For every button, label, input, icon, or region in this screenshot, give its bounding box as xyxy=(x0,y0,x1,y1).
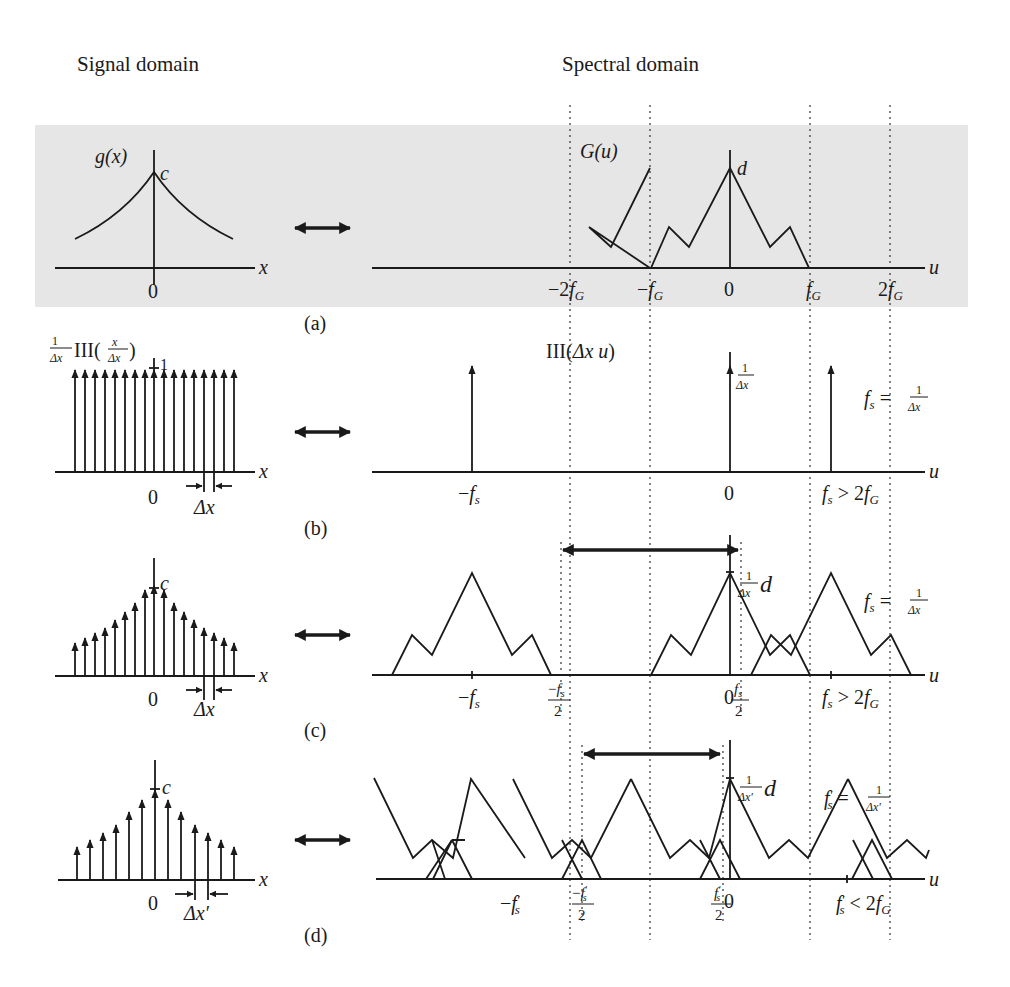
tick-fs-gt-2fG-c: fs > 2fG xyxy=(822,686,879,711)
label-III-signal: III( xyxy=(74,339,101,362)
label-0-d: 0 xyxy=(148,892,158,914)
svg-text:): ) xyxy=(129,339,136,362)
tick-minus-fsp-half-d: −f′s 2 xyxy=(572,884,594,923)
svg-text:1: 1 xyxy=(746,569,752,583)
tick-0-c: 0 xyxy=(724,686,734,708)
dotted-guides xyxy=(561,105,890,940)
svg-text:1: 1 xyxy=(746,773,752,787)
svg-text:Δx′: Δx′ xyxy=(865,800,881,814)
panel-a-spectrum xyxy=(372,150,925,268)
panel-c-dx-arrows xyxy=(186,676,232,700)
label-peak-c: d xyxy=(760,571,773,597)
svg-text:1: 1 xyxy=(916,586,922,600)
relation-c: fs = xyxy=(864,590,891,615)
svg-text:Δx′: Δx′ xyxy=(737,790,753,804)
caption-b: (b) xyxy=(304,517,327,540)
svg-text:fs: fs xyxy=(734,681,742,699)
panel-d-dx-arrows xyxy=(175,880,228,900)
label-d-a: d xyxy=(737,157,748,179)
label-unit-1: 1 xyxy=(160,356,168,373)
tick-2fG: 2fG xyxy=(878,278,904,303)
relation-b: fs = xyxy=(864,387,891,412)
label-dx-b: Δx xyxy=(193,496,215,518)
tick-minus-fs-b: −fs xyxy=(458,482,480,507)
tick-minus-fG: −fG xyxy=(637,278,664,303)
label-u-a: u xyxy=(929,256,939,278)
label-dx-c: Δx xyxy=(193,698,215,720)
tick-fs-half-c: fs 2 xyxy=(731,681,749,719)
panel-a-signal xyxy=(55,150,255,285)
label-0-b: 0 xyxy=(148,486,158,508)
svg-text:2: 2 xyxy=(554,703,562,719)
svg-text:x: x xyxy=(111,335,118,349)
label-x-b: x xyxy=(258,460,268,482)
label-0-a: 0 xyxy=(148,280,158,302)
svg-text:Δx: Δx xyxy=(907,400,921,414)
label-peak-d: d xyxy=(764,775,777,801)
label-x-a: x xyxy=(258,256,268,278)
sampling-figure: g(x) c x 0 G(u) d u −2fG −fG 0 fG 2fG (a… xyxy=(0,0,1010,987)
svg-text:Δx: Δx xyxy=(737,586,751,600)
panel-b-spectrum xyxy=(372,352,925,472)
tick-0-d: 0 xyxy=(724,890,734,912)
caption-c: (c) xyxy=(304,719,326,742)
label-x-d: x xyxy=(258,868,268,890)
svg-text:−f′s: −f′s xyxy=(572,884,588,903)
label-impulse-1-over-dx: Δx xyxy=(735,378,749,392)
panel-c-spectrum xyxy=(372,535,925,679)
label-u-d: u xyxy=(929,868,939,890)
svg-text:Δx: Δx xyxy=(107,351,121,365)
tick-minus-fsp-d: −f′s xyxy=(500,892,520,917)
caption-d: (d) xyxy=(304,924,327,947)
tick-fs-gt-2fG-b: fs > 2fG xyxy=(822,482,879,507)
svg-text:2: 2 xyxy=(578,907,586,923)
svg-text:1: 1 xyxy=(876,783,882,797)
panel-b-dx-arrows xyxy=(186,472,232,492)
svg-text:2: 2 xyxy=(715,907,723,923)
label-c-d: c xyxy=(162,776,171,798)
tick-minus-fs-c: −fs xyxy=(458,686,480,711)
label-Gu: G(u) xyxy=(580,140,618,163)
label-III-spectrum: III(Δx u) xyxy=(546,340,615,363)
label-0-c: 0 xyxy=(148,688,158,710)
caption-a: (a) xyxy=(304,312,326,335)
svg-text:f′s: f′s xyxy=(714,884,721,903)
label-c-c: c xyxy=(160,572,169,594)
tick-minus-fs-half-c: −fs 2 xyxy=(548,681,570,719)
label-dxp-d: Δx′ xyxy=(183,902,210,924)
svg-text:Δx: Δx xyxy=(907,603,921,617)
panel-d-signal xyxy=(58,790,255,880)
label-u-b: u xyxy=(929,460,939,482)
label-x-c: x xyxy=(258,664,268,686)
svg-text:−fs: −fs xyxy=(548,681,565,699)
tick-0-a: 0 xyxy=(724,278,734,300)
tick-minus-2fG: −2fG xyxy=(548,278,585,303)
tick-fG: fG xyxy=(806,278,822,303)
svg-text:1: 1 xyxy=(742,361,748,375)
relation-d: f′s = xyxy=(824,787,849,812)
panel-b-signal-comb xyxy=(55,370,255,472)
tick-fsp-lt-2fG-d: f′s < 2fG xyxy=(836,892,891,917)
label-b-frac-1: 1 xyxy=(52,334,58,348)
label-b-frac-dx: Δx xyxy=(49,351,63,365)
svg-text:1: 1 xyxy=(916,383,922,397)
panel-d-spectrum xyxy=(374,740,929,883)
label-c-a: c xyxy=(160,162,169,184)
svg-text:2: 2 xyxy=(735,703,743,719)
panel-c-signal xyxy=(55,586,255,676)
tick-0-b: 0 xyxy=(724,482,734,504)
label-u-c: u xyxy=(929,664,939,686)
label-gx: g(x) xyxy=(95,145,128,168)
